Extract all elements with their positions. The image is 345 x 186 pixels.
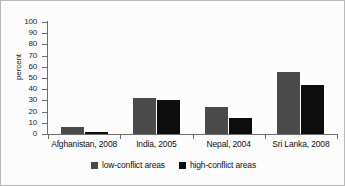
y-tick-label: 80 xyxy=(0,40,37,48)
x-tick-mark xyxy=(193,135,194,139)
bar-low-conflict xyxy=(133,98,156,134)
bar-high-conflict xyxy=(301,85,324,134)
x-axis-label: India, 2005 xyxy=(120,140,192,149)
bar-group xyxy=(205,22,252,134)
x-axis-label: Afghanistan, 2008 xyxy=(48,140,120,149)
y-tick-label: 30 xyxy=(0,96,37,104)
y-tick-label: 100 xyxy=(0,18,37,26)
bar-high-conflict xyxy=(157,100,180,134)
bar-low-conflict xyxy=(205,107,228,134)
bar-low-conflict xyxy=(61,127,84,134)
x-tick-mark xyxy=(120,135,121,139)
y-tick-label: 0 xyxy=(0,130,37,138)
y-tick-label: 50 xyxy=(0,74,37,82)
y-tick-label: 60 xyxy=(0,63,37,71)
legend-swatch-icon xyxy=(179,162,186,169)
x-tick-mark xyxy=(265,135,266,139)
x-axis-label: Nepal, 2004 xyxy=(193,140,265,149)
x-axis-label: Sri Lanka, 2008 xyxy=(265,140,337,149)
y-tick-label: 20 xyxy=(0,108,37,116)
bar-high-conflict xyxy=(85,132,108,134)
y-tick-label: 40 xyxy=(0,85,37,93)
bar-group xyxy=(61,22,108,134)
y-tick-label: 90 xyxy=(0,29,37,37)
x-tick-mark xyxy=(48,135,49,139)
legend-label: high-conflict areas xyxy=(190,161,256,170)
bar-group xyxy=(133,22,180,134)
legend-item: high-conflict areas xyxy=(179,161,256,170)
y-tick-label: 70 xyxy=(0,52,37,60)
legend-item: low-conflict areas xyxy=(91,161,165,170)
legend-swatch-icon xyxy=(91,162,98,169)
bar-high-conflict xyxy=(229,118,252,134)
bar-group xyxy=(277,22,324,134)
chart-legend: low-conflict areashigh-conflict areas xyxy=(1,161,345,170)
legend-label: low-conflict areas xyxy=(102,161,165,170)
x-tick-mark xyxy=(337,135,338,139)
y-tick-label: 10 xyxy=(0,119,37,127)
plot-area xyxy=(48,22,337,134)
chart-figure: percent 1009080706050403020100 Afghanist… xyxy=(0,0,345,186)
bar-low-conflict xyxy=(277,72,300,134)
